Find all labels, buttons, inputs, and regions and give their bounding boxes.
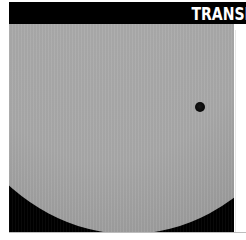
planet-dot-icon [195, 102, 205, 112]
header-title: TRANSI [192, 2, 246, 24]
right-divider [235, 30, 236, 232]
header-bar: TRANSI [9, 2, 246, 24]
transit-photo [9, 24, 234, 232]
bottom-divider [9, 232, 246, 233]
photo-texture [9, 24, 234, 232]
